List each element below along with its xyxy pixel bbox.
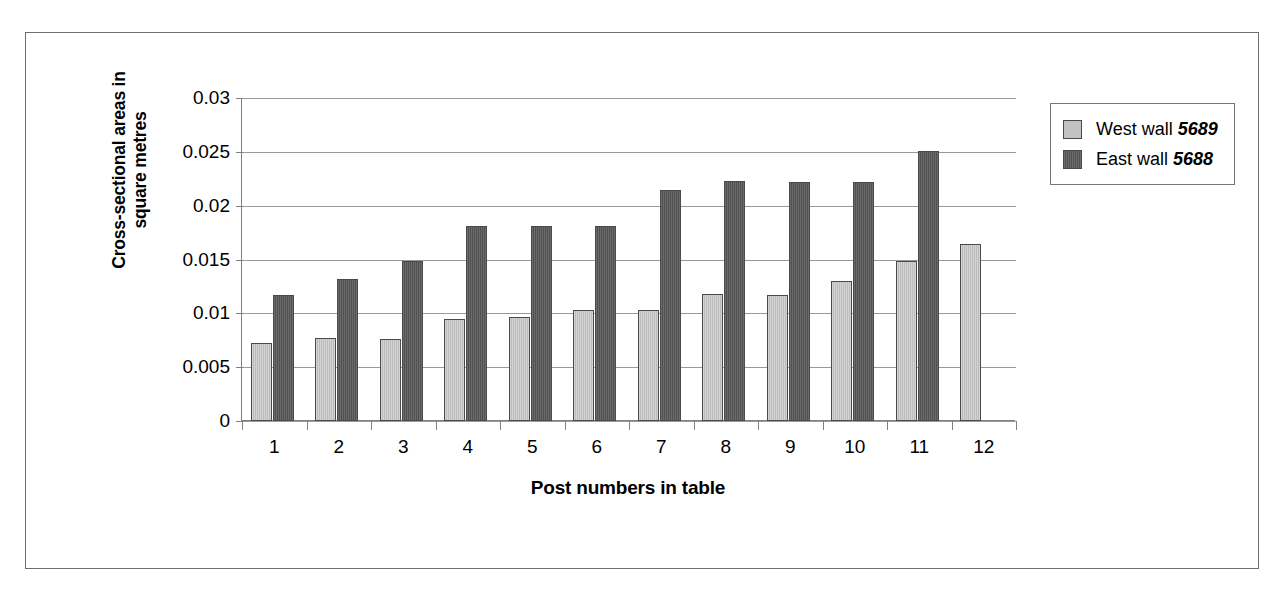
bar-group <box>694 98 759 421</box>
x-tick-mark <box>565 421 566 430</box>
bar-east-wall[interactable] <box>466 226 487 421</box>
bar-group <box>242 98 307 421</box>
bar-group <box>436 98 501 421</box>
bar-west-wall[interactable] <box>960 244 981 421</box>
y-tick-label: 0 <box>219 410 230 432</box>
bar-east-wall[interactable] <box>853 182 874 421</box>
x-tick-label: 2 <box>333 436 344 458</box>
legend-label-west-wall-text: West wall <box>1096 119 1173 139</box>
x-tick-mark <box>952 421 953 430</box>
chart-legend: West wall5689 East wall5688 <box>1050 103 1235 185</box>
x-tick-label: 8 <box>720 436 731 458</box>
y-axis-title-line-1: Cross-sectional areas in <box>109 71 130 269</box>
x-tick-mark <box>758 421 759 430</box>
bar-east-wall[interactable] <box>724 181 745 421</box>
plot-area: 00.0050.010.0150.020.0250.03 12345678910… <box>241 98 1015 421</box>
x-tick-label: 3 <box>398 436 409 458</box>
x-tick-mark <box>629 421 630 430</box>
x-tick-mark <box>1016 421 1017 430</box>
y-axis-title: Cross-sectional areas in square metres <box>100 10 160 330</box>
bar-group <box>887 98 952 421</box>
y-tick-label: 0.015 <box>182 249 230 271</box>
x-tick-mark <box>371 421 372 430</box>
bar-east-wall[interactable] <box>337 279 358 421</box>
bar-east-wall[interactable] <box>402 261 423 421</box>
bar-group <box>371 98 436 421</box>
bar-group <box>500 98 565 421</box>
legend-label-west-wall: West wall5689 <box>1096 119 1218 140</box>
x-tick-label: 5 <box>527 436 538 458</box>
bar-east-wall[interactable] <box>273 295 294 421</box>
x-tick-mark <box>694 421 695 430</box>
y-tick-label: 0.005 <box>182 356 230 378</box>
bar-west-wall[interactable] <box>896 261 917 421</box>
bars-layer <box>242 98 1016 421</box>
bar-west-wall[interactable] <box>702 294 723 421</box>
legend-item-east-wall[interactable]: East wall5688 <box>1063 144 1218 174</box>
bar-east-wall[interactable] <box>595 226 616 421</box>
legend-swatch-east-wall-icon <box>1063 150 1082 169</box>
x-tick-label: 6 <box>591 436 602 458</box>
x-tick-label: 10 <box>844 436 865 458</box>
legend-label-east-wall: East wall5688 <box>1096 149 1213 170</box>
legend-label-east-wall-text: East wall <box>1096 149 1168 169</box>
bar-group <box>952 98 1017 421</box>
x-tick-label: 12 <box>973 436 994 458</box>
y-tick-label: 0.01 <box>193 302 230 324</box>
bar-west-wall[interactable] <box>638 310 659 421</box>
y-tick-label: 0.03 <box>193 87 230 109</box>
x-tick-label: 11 <box>909 436 929 458</box>
bar-east-wall[interactable] <box>789 182 810 421</box>
y-tick-label: 0.025 <box>182 141 230 163</box>
x-tick-mark <box>242 421 243 430</box>
x-tick-label: 7 <box>656 436 667 458</box>
bar-group <box>823 98 888 421</box>
x-tick-mark <box>823 421 824 430</box>
bar-east-wall[interactable] <box>918 151 939 421</box>
x-axis-title: Post numbers in table <box>241 477 1015 499</box>
y-tick-label: 0.02 <box>193 195 230 217</box>
bar-west-wall[interactable] <box>573 310 594 421</box>
x-tick-mark <box>307 421 308 430</box>
bar-group <box>565 98 630 421</box>
x-tick-label: 9 <box>785 436 796 458</box>
legend-swatch-west-wall-icon <box>1063 120 1082 139</box>
x-tick-mark <box>436 421 437 430</box>
x-tick-mark <box>500 421 501 430</box>
bar-west-wall[interactable] <box>767 295 788 421</box>
bar-west-wall[interactable] <box>380 339 401 421</box>
bar-west-wall[interactable] <box>831 281 852 421</box>
bar-west-wall[interactable] <box>444 319 465 421</box>
x-tick-label: 4 <box>462 436 473 458</box>
bar-west-wall[interactable] <box>251 343 272 421</box>
bar-group <box>629 98 694 421</box>
y-axis-title-line-2: square metres <box>130 111 151 228</box>
bar-group <box>307 98 372 421</box>
bar-east-wall[interactable] <box>660 190 681 421</box>
legend-code-west-wall: 5689 <box>1178 119 1218 139</box>
chart-figure: Cross-sectional areas in square metres 0… <box>0 0 1277 589</box>
bar-west-wall[interactable] <box>315 338 336 421</box>
bar-east-wall[interactable] <box>531 226 552 421</box>
legend-code-east-wall: 5688 <box>1173 149 1213 169</box>
bar-west-wall[interactable] <box>509 317 530 421</box>
x-tick-label: 1 <box>269 436 280 458</box>
legend-item-west-wall[interactable]: West wall5689 <box>1063 114 1218 144</box>
bar-group <box>758 98 823 421</box>
x-tick-mark <box>887 421 888 430</box>
